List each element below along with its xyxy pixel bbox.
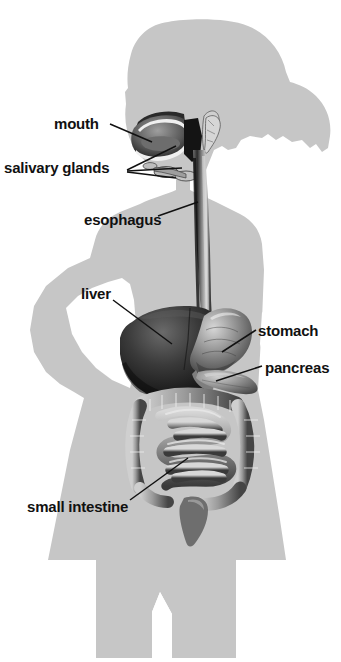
- leader-mouth: [110, 124, 152, 142]
- leader-pancreas: [216, 366, 262, 381]
- leader-small-intestine: [130, 458, 188, 500]
- label-small-intestine: small intestine: [27, 498, 128, 515]
- leader-esophagus: [158, 202, 198, 216]
- leader-salivary-3: [127, 172, 176, 178]
- label-stomach: stomach: [258, 322, 318, 339]
- leader-stomach: [222, 330, 256, 352]
- leader-salivary-1: [127, 146, 176, 170]
- label-pancreas: pancreas: [265, 359, 329, 376]
- label-mouth: mouth: [54, 115, 99, 132]
- label-esophagus: esophagus: [84, 211, 161, 228]
- diagram-canvas: mouth salivary glands esophagus liver st…: [0, 0, 341, 662]
- label-salivary-glands: salivary glands: [4, 159, 109, 176]
- leader-liver: [113, 300, 172, 344]
- label-liver: liver: [81, 285, 111, 302]
- leader-salivary-2: [127, 168, 182, 171]
